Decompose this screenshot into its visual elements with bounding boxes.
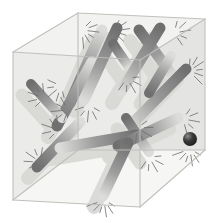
rods-in-cube-illustration: Rods randomly packed inside a transparen…: [0, 0, 222, 223]
dark-sphere-layer: [183, 132, 197, 146]
figure-canvas: Rods randomly packed inside a transparen…: [0, 0, 222, 223]
dark-sphere: [183, 132, 197, 146]
